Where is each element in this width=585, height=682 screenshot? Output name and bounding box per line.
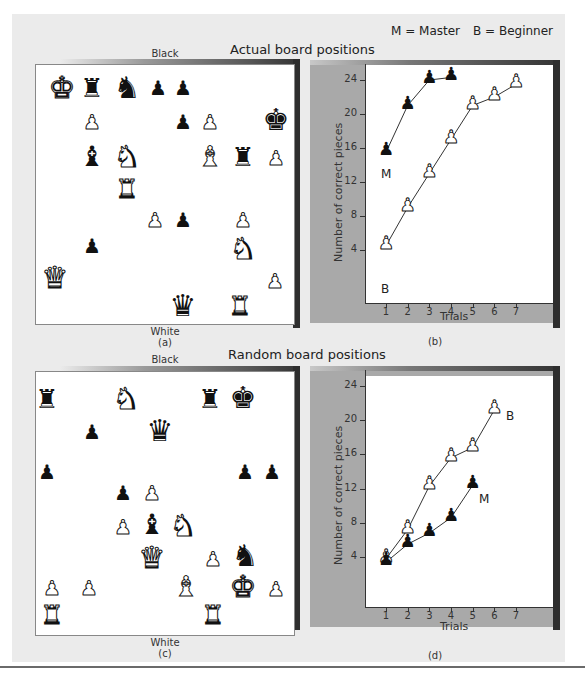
white-pawn-marker-icon: ♟ [443, 446, 459, 464]
white-pawn-marker-icon: ♟ [486, 398, 502, 416]
black-pawn-marker-icon: ♟ [421, 521, 437, 539]
black-pawn-marker-icon: ♟ [443, 506, 459, 524]
black-pawn-marker-icon: ♟ [465, 473, 481, 491]
black-pawn-marker-icon: ♟ [378, 550, 394, 568]
white-pawn-marker-icon: ♟ [465, 436, 481, 454]
white-pawn-marker-icon: ♟ [421, 474, 437, 492]
chart-d-lines [0, 0, 585, 682]
black-pawn-marker-icon: ♟ [400, 532, 416, 550]
